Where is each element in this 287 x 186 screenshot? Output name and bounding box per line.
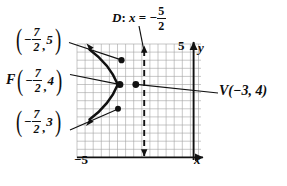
close-paren: ): [55, 27, 61, 52]
coordinate-x: − 7 2: [24, 108, 41, 135]
directrix-variable: x: [129, 10, 136, 26]
minus-sign: −: [24, 115, 31, 128]
comma: ,: [42, 39, 45, 53]
directrix-equals: =: [139, 10, 146, 26]
coordinate-x: − 7 2: [25, 67, 42, 94]
close-paren: ): [56, 68, 62, 93]
close-paren: ): [55, 109, 61, 134]
directrix-denominator: 2: [158, 20, 164, 32]
x-axis-tick-label: −5: [74, 152, 88, 168]
vertex-label: V(−3, 4): [219, 83, 267, 99]
denominator: 2: [34, 82, 42, 94]
open-paren: (: [17, 68, 23, 93]
point-above-label: ( − 7 2 , 5 ): [14, 26, 63, 53]
comma: ,: [42, 121, 45, 135]
directrix-minus: −: [149, 10, 156, 26]
directrix-numerator: 5: [158, 5, 164, 17]
minus-sign: −: [25, 74, 32, 87]
fraction: 7 2: [33, 67, 42, 94]
comma: ,: [43, 80, 46, 94]
coordinate-y: 4: [48, 74, 55, 87]
point-below-label: ( − 7 2 , 3 ): [14, 108, 63, 135]
minus-sign: −: [24, 33, 31, 46]
fraction: 7 2: [32, 26, 41, 53]
focus-label: F ( − 7 2 , 4 ): [6, 67, 64, 94]
numerator: 7: [34, 67, 42, 79]
y-axis-tick-label: 5: [178, 38, 185, 54]
grid-lines: [77, 44, 201, 158]
coordinate-y: 3: [46, 115, 53, 128]
open-paren: (: [16, 27, 22, 52]
coordinate-x: − 7 2: [24, 26, 41, 53]
point-below-dot: [115, 106, 121, 112]
denominator: 2: [32, 123, 40, 135]
denominator: 2: [32, 41, 40, 53]
y-axis-label: y: [198, 40, 204, 56]
open-paren: (: [16, 109, 22, 134]
parabola-figure: D: x = −52 ( − 7 2 , 5 ) F ( −: [0, 0, 287, 186]
fraction: 7 2: [32, 108, 41, 135]
focus-prefix: F: [6, 73, 15, 87]
leader-vertex: [137, 84, 219, 93]
directrix-colon: :: [121, 10, 125, 26]
directrix-fraction: 52: [157, 5, 166, 32]
coordinate-y: 5: [46, 33, 53, 46]
directrix-label: D: x = −52: [112, 5, 166, 32]
numerator: 7: [32, 108, 40, 120]
x-axis-label: x: [194, 152, 201, 168]
point-above-dot: [118, 57, 124, 63]
directrix-name: D: [112, 10, 121, 26]
numerator: 7: [32, 26, 40, 38]
